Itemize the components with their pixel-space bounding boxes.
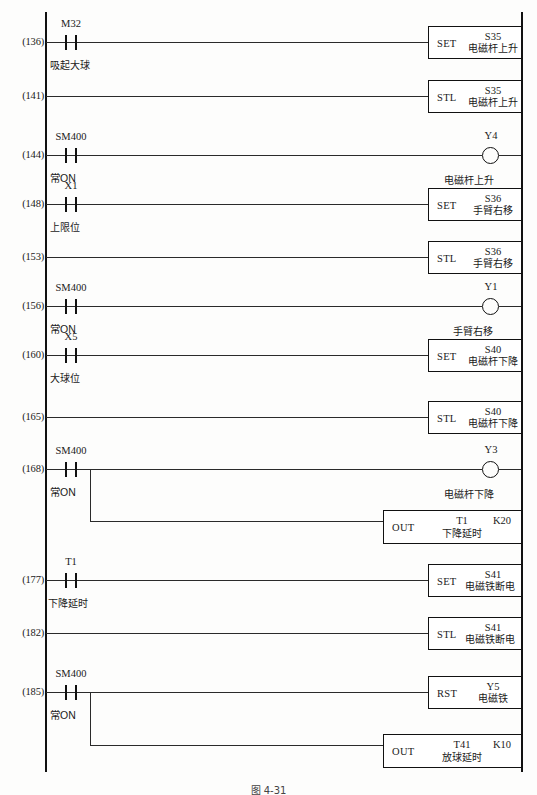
rung-wire-185 bbox=[46, 692, 428, 693]
instruction-op-set-s40: SET bbox=[437, 350, 457, 361]
instruction-operand-note-t1: 下降延时 bbox=[430, 525, 494, 540]
instruction-op-out-t41: OUT bbox=[392, 746, 414, 757]
rung-number-148: (148) bbox=[4, 198, 44, 209]
contact-note-x5: 大球位 bbox=[50, 370, 80, 385]
coil-y1[interactable] bbox=[482, 298, 499, 315]
contact-note-sm400-185: 常ON bbox=[50, 707, 76, 722]
instruction-box-stl-s40[interactable]: STL S40 电磁杆下降 bbox=[428, 401, 522, 434]
instruction-op-out-t1: OUT bbox=[392, 522, 414, 533]
contact-label-sm400-144: SM400 bbox=[47, 131, 95, 142]
instruction-box-stl-s35[interactable]: STL S35 电磁杆上升 bbox=[428, 80, 522, 113]
branch-wire-168 bbox=[90, 521, 383, 522]
instruction-box-set-s35[interactable]: SET S35 电磁杆上升 bbox=[428, 26, 522, 59]
contact-note-sm400-168: 常ON bbox=[50, 484, 76, 499]
coil-note-y1: 手臂右移 bbox=[453, 323, 493, 338]
contact-label-sm400-185: SM400 bbox=[47, 668, 95, 679]
instruction-op-stl-s36: STL bbox=[437, 252, 457, 263]
instruction-op-stl: STL bbox=[437, 91, 457, 102]
instruction-box-stl-s36[interactable]: STL S36 手臂右移 bbox=[428, 241, 522, 274]
rung-wire-144-right bbox=[499, 155, 521, 156]
instruction-operand-note-y5: 电磁铁 bbox=[465, 690, 521, 705]
contact-label-x5: X5 bbox=[52, 331, 90, 342]
rung-wire-144 bbox=[46, 155, 482, 156]
coil-note-y4: 电磁杆上升 bbox=[444, 172, 494, 187]
rung-wire-156 bbox=[46, 306, 482, 307]
instruction-box-set-s41[interactable]: SET S41 电磁铁断电 bbox=[428, 564, 522, 597]
rung-wire-156-right bbox=[499, 306, 521, 307]
coil-note-y3: 电磁杆下降 bbox=[444, 486, 494, 501]
rung-number-141: (141) bbox=[4, 90, 44, 101]
rung-wire-182 bbox=[46, 633, 428, 634]
rung-number-168: (168) bbox=[4, 463, 44, 474]
rung-number-177: (177) bbox=[4, 574, 44, 585]
instruction-operand-note-s35: 电磁杆上升 bbox=[465, 40, 521, 55]
left-power-rail bbox=[45, 12, 47, 772]
instruction-operand-note-s40: 电磁杆下降 bbox=[465, 353, 521, 368]
contact-label-x1: X1 bbox=[52, 180, 90, 191]
instruction-operand-note-s36-stl: 手臂右移 bbox=[465, 255, 521, 270]
instruction-box-out-t1[interactable]: OUT T1 下降延时 K20 bbox=[383, 510, 522, 544]
rung-wire-141 bbox=[46, 96, 428, 97]
rung-wire-153 bbox=[46, 257, 428, 258]
instruction-box-rst-y5[interactable]: RST Y5 电磁铁 bbox=[428, 676, 522, 709]
coil-y4[interactable] bbox=[482, 147, 499, 164]
instruction-op-set-s41: SET bbox=[437, 575, 457, 586]
instruction-op-set: SET bbox=[437, 37, 457, 48]
instruction-box-out-t41[interactable]: OUT T41 放球延时 K10 bbox=[383, 734, 522, 768]
instruction-operand-note-s35-stl: 电磁杆上升 bbox=[465, 94, 521, 109]
rung-number-156: (156) bbox=[4, 300, 44, 311]
instruction-op-stl-s41: STL bbox=[437, 628, 457, 639]
rung-number-144: (144) bbox=[4, 149, 44, 160]
rung-number-153: (153) bbox=[4, 251, 44, 262]
branch-vertical-185 bbox=[90, 692, 91, 746]
rung-number-182: (182) bbox=[4, 627, 44, 638]
instruction-kvalue-k10: K10 bbox=[493, 739, 511, 750]
contact-note-t1: 下降延时 bbox=[48, 595, 88, 610]
instruction-operand-note-s41-stl: 电磁铁断电 bbox=[459, 631, 521, 646]
rung-number-136: (136) bbox=[4, 36, 44, 47]
rung-wire-165 bbox=[46, 417, 428, 418]
rung-number-165: (165) bbox=[4, 411, 44, 422]
ladder-diagram-sheet: (136) M32 吸起大球 SET S35 电磁杆上升 (141) STL S… bbox=[0, 0, 537, 795]
branch-wire-185 bbox=[90, 745, 383, 746]
instruction-operand-note-s41: 电磁铁断电 bbox=[459, 578, 521, 593]
rung-wire-160 bbox=[46, 355, 428, 356]
rung-wire-168-right bbox=[499, 469, 521, 470]
rung-number-185: (185) bbox=[4, 686, 44, 697]
instruction-operand-note-s36: 手臂右移 bbox=[465, 202, 521, 217]
coil-label-y1: Y1 bbox=[465, 281, 517, 292]
instruction-op-stl-s40: STL bbox=[437, 412, 457, 423]
instruction-op-set-s36: SET bbox=[437, 199, 457, 210]
contact-note-m32: 吸起大球 bbox=[50, 57, 90, 72]
instruction-box-set-s36[interactable]: SET S36 手臂右移 bbox=[428, 188, 522, 221]
rung-wire-168 bbox=[46, 469, 482, 470]
rung-wire-136 bbox=[46, 42, 428, 43]
contact-note-x1: 上限位 bbox=[50, 219, 80, 234]
coil-y3[interactable] bbox=[482, 461, 499, 478]
coil-label-y4: Y4 bbox=[465, 130, 517, 141]
rung-number-160: (160) bbox=[4, 349, 44, 360]
instruction-kvalue-k20: K20 bbox=[493, 515, 511, 526]
instruction-box-set-s40[interactable]: SET S40 电磁杆下降 bbox=[428, 339, 522, 372]
contact-label-sm400-168: SM400 bbox=[47, 445, 95, 456]
branch-vertical-168 bbox=[90, 469, 91, 522]
instruction-box-stl-s41[interactable]: STL S41 电磁铁断电 bbox=[428, 617, 522, 650]
rung-wire-148 bbox=[46, 204, 428, 205]
coil-label-y3: Y3 bbox=[465, 444, 517, 455]
instruction-operand-note-t41: 放球延时 bbox=[430, 749, 494, 764]
instruction-op-rst-y5: RST bbox=[437, 687, 457, 698]
contact-label-m32: M32 bbox=[50, 18, 92, 29]
figure-caption: 图 4-31 bbox=[0, 782, 537, 795]
contact-label-t1: T1 bbox=[52, 556, 90, 567]
rung-wire-177 bbox=[46, 580, 428, 581]
instruction-operand-note-s40-stl: 电磁杆下降 bbox=[465, 415, 521, 430]
right-power-rail bbox=[521, 12, 523, 772]
contact-label-sm400-156: SM400 bbox=[47, 282, 95, 293]
